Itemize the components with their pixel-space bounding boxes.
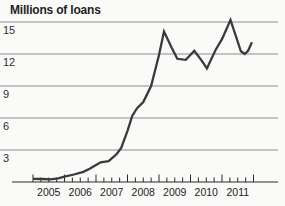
chart-plot-area: 36912152005200620072008200920102011 (0, 0, 285, 206)
y-axis-tick-label: 6 (3, 120, 9, 132)
x-axis-year-label: 2011 (226, 186, 249, 198)
y-axis-tick-label: 15 (3, 24, 15, 36)
x-axis-year-label: 2007 (100, 186, 124, 198)
x-axis-year-label: 2006 (69, 186, 93, 198)
y-axis-tick-label: 12 (3, 56, 15, 68)
x-axis-year-label: 2009 (163, 186, 187, 198)
loan-volume-chart: Millions of loans 3691215200520062007200… (0, 0, 285, 206)
loans-line-series (33, 20, 252, 179)
x-axis-year-label: 2010 (195, 186, 219, 198)
x-axis-year-label: 2008 (132, 186, 156, 198)
x-axis-year-label: 2005 (37, 186, 61, 198)
y-axis-tick-label: 3 (3, 152, 9, 164)
y-axis-tick-label: 9 (3, 88, 9, 100)
